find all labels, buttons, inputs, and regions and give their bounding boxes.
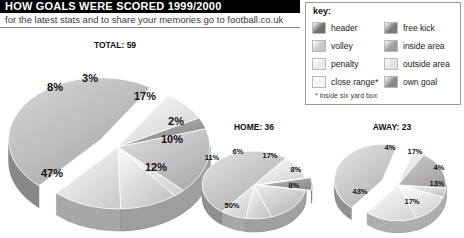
legend-swatch-close-range <box>312 76 326 88</box>
page-subtitle: for the latest stats and to share your m… <box>5 13 283 27</box>
pie-label-home-1: 11% <box>205 153 220 162</box>
chart-title-total: TOTAL: 59 <box>94 40 136 50</box>
legend-label-own-goal: own goal <box>403 77 437 87</box>
chart-title-away: AWAY: 23 <box>373 122 411 132</box>
legend-item-outside-area: outside area <box>384 58 460 70</box>
pie-label-away-4: 13% <box>429 179 444 188</box>
legend-item-inside-area: inside area <box>384 40 460 52</box>
legend-swatch-volley <box>312 40 326 52</box>
pie-label-total-2: 3% <box>82 72 98 84</box>
legend-item-close-range: close range* <box>312 76 384 88</box>
legend-swatch-free-kick <box>384 22 398 34</box>
legend-title: key: <box>313 6 331 16</box>
legend-footnote: * inside six yard box <box>315 92 377 99</box>
legend-box: key: header free kick volley inside area… <box>305 2 461 105</box>
pie-label-total-4: 2% <box>168 115 184 127</box>
legend-swatch-outside-area <box>384 58 398 70</box>
pie-label-home-0: 50% <box>224 201 239 210</box>
subtitle-bar: for the latest stats and to share your m… <box>0 13 300 28</box>
pie-label-total-6: 12% <box>145 161 167 173</box>
pie-label-away-1: 4% <box>385 143 396 152</box>
pie-label-home-2: 6% <box>233 147 244 156</box>
pie-label-away-3: 4% <box>434 163 445 172</box>
pie-label-away-2: 17% <box>407 147 422 156</box>
pie-label-total-1: 8% <box>47 81 63 93</box>
legend-swatch-header <box>312 22 326 34</box>
legend-label-inside-area: inside area <box>403 41 445 51</box>
pie-label-total-5: 10% <box>161 133 183 145</box>
title-bar: HOW GOALS WERE SCORED 1999/2000 <box>0 0 300 13</box>
pie-chart-away: AWAY: 23 43%4%17%4%13%17% <box>320 122 464 234</box>
pie-label-away-0: 43% <box>352 187 367 196</box>
pie-label-home-4: 8% <box>291 165 302 174</box>
legend-item-header: header <box>312 22 384 34</box>
legend-label-header: header <box>331 23 357 33</box>
legend-item-free-kick: free kick <box>384 22 460 34</box>
legend-swatch-penalty <box>312 58 326 70</box>
page-title: HOW GOALS WERE SCORED 1999/2000 <box>5 0 221 13</box>
legend-item-volley: volley <box>312 40 384 52</box>
legend-label-outside-area: outside area <box>403 59 450 69</box>
pie-label-total-3: 17% <box>134 90 156 102</box>
legend-item-own-goal: own goal <box>384 76 460 88</box>
legend-swatch-inside-area <box>384 40 398 52</box>
legend-swatch-own-goal <box>384 76 398 88</box>
legend-item-penalty: penalty <box>312 58 384 70</box>
chart-title-home: HOME: 36 <box>234 122 274 132</box>
legend-label-close-range: close range* <box>331 77 378 87</box>
pie-label-away-5: 17% <box>404 197 419 206</box>
poster-root: HOW GOALS WERE SCORED 1999/2000 for the … <box>0 0 464 238</box>
legend-label-volley: volley <box>331 41 353 51</box>
pie-label-home-3: 17% <box>262 151 277 160</box>
pie-label-total-0: 47% <box>41 167 63 179</box>
pie-label-home-5: 8% <box>289 181 300 190</box>
legend-label-penalty: penalty <box>331 59 358 69</box>
pie-chart-home: HOME: 36 50%11%6%17%8%8% <box>190 122 318 234</box>
legend-items: header free kick volley inside area pena… <box>312 19 460 91</box>
legend-label-free-kick: free kick <box>403 23 435 33</box>
